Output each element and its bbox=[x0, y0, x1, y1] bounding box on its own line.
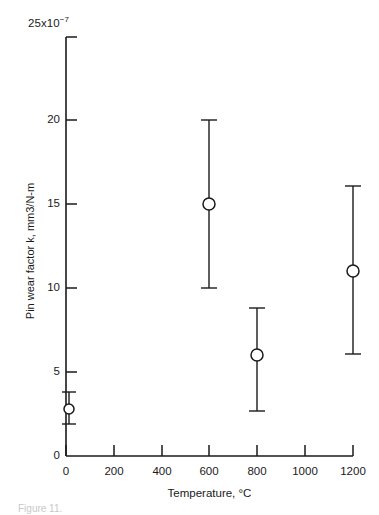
y-axis-ticks bbox=[66, 37, 77, 372]
y-axis-title: Pin wear factor k, mm3/N-m bbox=[24, 151, 36, 351]
data-point-600c bbox=[201, 120, 217, 288]
y-axis-exponent-power: −7 bbox=[60, 15, 69, 24]
marker-circle bbox=[64, 404, 74, 414]
chart-plot-area bbox=[0, 0, 379, 515]
x-tick-label-400: 400 bbox=[142, 465, 182, 477]
marker-circle bbox=[203, 198, 215, 210]
x-tick-label-1000: 1000 bbox=[285, 465, 325, 477]
y-tick-label-20: 20 bbox=[32, 113, 60, 125]
x-tick-label-600: 600 bbox=[189, 465, 229, 477]
x-tick-label-800: 800 bbox=[237, 465, 277, 477]
x-tick-label-200: 200 bbox=[94, 465, 134, 477]
data-point-1200c bbox=[345, 186, 361, 354]
figure-caption-stub: Figure 11. bbox=[18, 503, 62, 514]
y-axis-exponent-label: 25x10−7 bbox=[28, 17, 69, 29]
y-tick-label-5: 5 bbox=[32, 365, 60, 377]
figure-container: 25x10−7 20 15 10 5 0 0 200 400 600 800 1… bbox=[0, 0, 379, 515]
marker-circle bbox=[347, 265, 359, 277]
data-point-800c bbox=[249, 308, 265, 411]
marker-circle bbox=[251, 349, 263, 361]
x-tick-label-0: 0 bbox=[46, 465, 86, 477]
data-point-room-temperature bbox=[62, 392, 76, 424]
x-axis-title: Temperature, °C bbox=[66, 487, 353, 499]
y-axis-exponent-mantissa: 25x10 bbox=[28, 17, 60, 29]
y-tick-label-15: 15 bbox=[32, 197, 60, 209]
x-axis-ticks bbox=[66, 445, 353, 456]
x-tick-label-1200: 1200 bbox=[333, 465, 373, 477]
y-tick-label-0: 0 bbox=[32, 449, 60, 461]
y-tick-label-10: 10 bbox=[32, 281, 60, 293]
